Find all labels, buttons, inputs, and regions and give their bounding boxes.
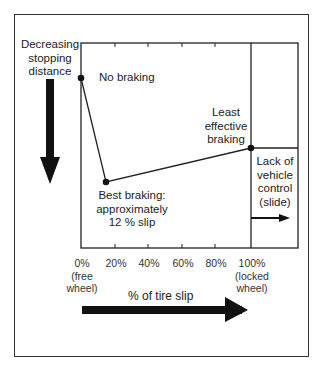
least-effective-line-2: effective: [200, 120, 252, 134]
x-tick-0-label: 0%: [67, 257, 98, 270]
best-braking-line-2: approximately: [86, 203, 178, 217]
y-label-line-3: distance: [17, 65, 83, 79]
x-tick-0-sub-2: wheel): [67, 282, 98, 295]
lack-of-control-line-1: Lack of: [252, 155, 298, 169]
least-effective-label: Least effective braking: [200, 106, 252, 147]
x-tick-100: 100% (locked wheel): [235, 257, 269, 295]
x-tick-60: 60%: [172, 257, 193, 270]
lack-of-control-line-2: vehicle: [252, 169, 298, 183]
lack-of-control-line-4: (slide): [252, 196, 298, 210]
x-tick-20: 20%: [105, 257, 126, 270]
slide-arrow-icon: [251, 214, 290, 222]
lack-of-control-label: Lack of vehicle control (slide): [252, 155, 298, 209]
x-axis-title: % of tire slip: [128, 290, 193, 304]
point-best-braking: [103, 179, 110, 186]
x-tick-40: 40%: [138, 257, 159, 270]
x-tick-80: 80%: [205, 257, 226, 270]
least-effective-line-1: Least: [200, 106, 252, 120]
least-effective-line-3: braking: [200, 133, 252, 147]
x-tick-100-sub-1: (locked: [235, 270, 269, 283]
lack-of-control-line-3: control: [252, 182, 298, 196]
best-braking-line-1: Best braking:: [86, 189, 178, 203]
y-axis-label: Decreasing stopping distance: [17, 38, 83, 79]
y-label-line-1: Decreasing: [17, 38, 83, 52]
down-arrow-icon: [40, 79, 60, 184]
x-tick-100-sub-2: wheel): [235, 282, 269, 295]
best-braking-line-3: 12 % slip: [86, 216, 178, 230]
x-tick-0-sub-1: (free: [67, 270, 98, 283]
x-tick-0: 0% (free wheel): [67, 257, 98, 295]
best-braking-label: Best braking: approximately 12 % slip: [86, 189, 178, 230]
x-tick-100-label: 100%: [235, 257, 269, 270]
no-braking-label: No braking: [99, 71, 155, 85]
y-label-line-2: stopping: [17, 52, 83, 66]
